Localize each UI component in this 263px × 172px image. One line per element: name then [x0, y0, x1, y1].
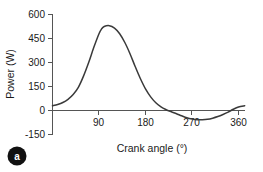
- y-tick-label-600: 600: [28, 9, 45, 20]
- y-tick-label-150: 150: [28, 81, 45, 92]
- x-tick-label-90: 90: [93, 117, 105, 128]
- figure-panel: 600 450 300 150 0 -150 90 180 270 360 Cr…: [0, 0, 263, 172]
- y-tick-label-0: 0: [39, 105, 45, 116]
- y-axis-title: Power (W): [4, 49, 16, 99]
- y-tick-label-neg150: -150: [25, 129, 45, 140]
- power-vs-crank-angle-chart: 600 450 300 150 0 -150 90 180 270 360 Cr…: [0, 0, 263, 172]
- x-tick-label-180: 180: [137, 117, 154, 128]
- x-tick-label-360: 360: [230, 117, 247, 128]
- y-axis-ticks: [48, 15, 53, 135]
- x-axis-title: Crank angle (°): [117, 142, 188, 154]
- panel-letter-text: a: [14, 151, 20, 162]
- power-curve: [53, 26, 245, 120]
- panel-letter-badge: a: [8, 147, 27, 166]
- y-tick-label-300: 300: [28, 57, 45, 68]
- y-tick-label-450: 450: [28, 33, 45, 44]
